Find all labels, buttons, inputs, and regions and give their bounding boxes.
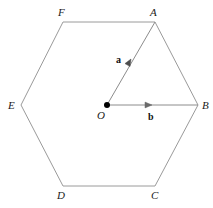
centre-point-dot <box>104 102 110 108</box>
vector-a-line <box>107 22 155 105</box>
vertex-label-f: F <box>58 7 65 18</box>
centre-label-o: O <box>97 110 105 121</box>
vertex-label-d: D <box>57 190 65 201</box>
vertex-label-e: E <box>8 100 15 111</box>
hexagon-vector-figure: A B C D E F O a b <box>0 0 213 208</box>
vector-a-arrowhead <box>125 59 131 67</box>
vertex-label-c: C <box>151 190 158 201</box>
figure-canvas <box>0 0 213 208</box>
vector-label-b: b <box>148 112 154 122</box>
vector-b-arrowhead <box>145 102 152 108</box>
vertex-label-a: A <box>150 7 157 18</box>
vertex-label-b: B <box>202 100 209 111</box>
vector-label-a: a <box>116 55 121 65</box>
